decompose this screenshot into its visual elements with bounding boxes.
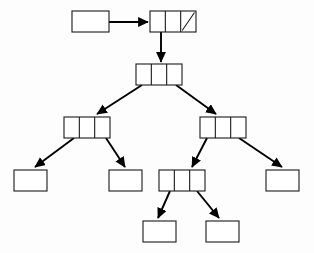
leaf-far-left-box xyxy=(14,170,47,191)
edge-level3-right-to-leaf-far-right xyxy=(239,138,282,167)
edge-level3-left-to-leaf-far-left xyxy=(35,138,74,167)
leaf-mid-left-box xyxy=(109,170,142,191)
level3-right-node-outline xyxy=(200,117,246,138)
leaf-bottom-left-box xyxy=(143,221,176,242)
level2-node-outline xyxy=(136,64,182,85)
leaf-bottom-right-box xyxy=(206,221,239,242)
level4-middle-node xyxy=(159,170,205,191)
leaf-mid-left-box-outline xyxy=(109,170,142,191)
leaf-far-left-box-outline xyxy=(14,170,47,191)
root-node-outline xyxy=(150,11,196,32)
tree-diagram-canvas xyxy=(0,0,314,253)
edge-level3-left-to-leaf-mid-left xyxy=(106,138,125,167)
tree-diagram-svg xyxy=(0,0,314,253)
edge-level4-mid-to-leaf-bottom-left xyxy=(158,191,170,218)
leaf-far-right-box xyxy=(266,170,299,191)
root-node xyxy=(150,11,196,32)
edge-level4-mid-to-leaf-bottom-right xyxy=(197,191,219,218)
leaf-bottom-left-box-outline xyxy=(143,221,176,242)
leaf-bottom-right-box-outline xyxy=(206,221,239,242)
edge-level2-to-level3-right xyxy=(176,85,216,114)
edge-level2-to-level3-left xyxy=(97,85,142,114)
external-pointer-box-outline xyxy=(72,11,109,32)
level3-left-node-outline xyxy=(64,117,110,138)
level4-middle-node-outline xyxy=(159,170,205,191)
external-pointer-box xyxy=(72,11,109,32)
level2-node xyxy=(136,64,182,85)
nodes-layer xyxy=(14,11,299,242)
level3-right-node xyxy=(200,117,246,138)
edge-level3-right-to-level4-mid xyxy=(192,138,207,167)
leaf-far-right-box-outline xyxy=(266,170,299,191)
level3-left-node xyxy=(64,117,110,138)
